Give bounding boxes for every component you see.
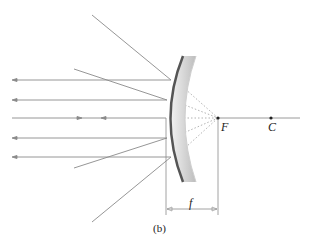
arrow-left-icon bbox=[12, 99, 17, 102]
arrow-left-icon bbox=[12, 137, 17, 140]
incident-ray-1 bbox=[92, 15, 171, 80]
figure-caption: (b) bbox=[153, 222, 166, 235]
arrow-right-icon bbox=[77, 117, 82, 120]
arrow-left-icon bbox=[101, 117, 106, 120]
focal-length-label: f bbox=[189, 196, 194, 210]
convex-mirror bbox=[171, 56, 197, 182]
incident-rays bbox=[74, 15, 171, 222]
arrow-left-icon bbox=[12, 156, 17, 159]
incident-ray-2 bbox=[74, 69, 167, 100]
reflected-rays bbox=[12, 79, 171, 159]
incident-ray-5 bbox=[92, 157, 171, 222]
arrow-left-icon bbox=[12, 79, 17, 82]
focal-point-dot bbox=[216, 116, 219, 119]
center-of-curvature-label: C bbox=[268, 120, 277, 134]
focal-point-label: F bbox=[220, 120, 229, 134]
incident-ray-4 bbox=[74, 138, 167, 168]
convex-mirror-diagram: f F C (b) bbox=[0, 0, 314, 251]
